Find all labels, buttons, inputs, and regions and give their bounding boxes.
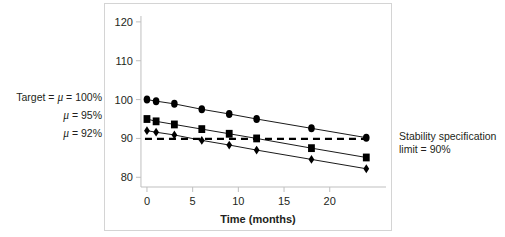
data-point-square (253, 135, 260, 143)
right-annotation-line2: limit = 90% (399, 143, 503, 156)
data-point-circle (153, 97, 160, 105)
right-annotation-stability-limit: Stability specification limit = 90% (399, 130, 503, 155)
data-point-circle (226, 110, 233, 118)
annotation-target-100: Target = μ = 100% (6, 88, 102, 106)
annotation-mu-92-suffix: = 92% (69, 127, 102, 139)
tick-label-group: 809010011012005101520 (115, 16, 336, 207)
data-point-square (171, 121, 178, 129)
data-point-diamond (144, 126, 150, 135)
data-point-circle (253, 115, 260, 123)
data-point-square (363, 154, 370, 162)
data-point-diamond (363, 164, 369, 173)
chart-figure: Target = μ = 100% μ = 95% μ = 92% 809010… (0, 0, 505, 237)
data-point-diamond (226, 141, 232, 150)
y-tick-label: 120 (115, 16, 133, 28)
x-tick-label: 10 (232, 195, 244, 207)
y-tick-label: 80 (121, 171, 133, 183)
x-axis-title: Time (months) (220, 213, 296, 225)
annotation-target-suffix: = 100% (63, 91, 102, 103)
annotation-target-prefix: Target = (16, 91, 57, 103)
annotation-mu-95: μ = 95% (6, 106, 102, 124)
data-point-circle (198, 105, 205, 113)
y-tick-label: 90 (121, 132, 133, 144)
right-annotation-line1: Stability specification (399, 130, 503, 143)
data-point-diamond (254, 146, 260, 155)
y-tick-label: 100 (115, 94, 133, 106)
data-point-square (226, 130, 233, 138)
data-point-diamond (309, 155, 315, 164)
left-annotation-group: Target = μ = 100% μ = 95% μ = 92% (6, 88, 102, 142)
annotation-mu-95-suffix: = 95% (69, 109, 102, 121)
x-tick-label: 20 (324, 195, 336, 207)
plot-canvas: 809010011012005101520 Time (months) (104, 3, 392, 231)
data-point-square (308, 144, 315, 152)
data-point-square (153, 117, 160, 125)
y-tick-label: 110 (115, 55, 133, 67)
x-tick-label: 15 (278, 195, 290, 207)
data-point-diamond (153, 128, 159, 137)
data-point-circle (171, 100, 178, 108)
data-point-diamond (199, 136, 205, 145)
data-point-square (144, 115, 151, 123)
series-group (144, 96, 370, 174)
annotation-mu-92: μ = 92% (6, 124, 102, 142)
data-point-circle (363, 134, 370, 142)
data-point-circle (308, 124, 315, 132)
x-tick-label: 0 (144, 195, 150, 207)
data-point-square (198, 125, 205, 133)
data-point-circle (144, 96, 151, 104)
x-tick-label: 5 (190, 195, 196, 207)
